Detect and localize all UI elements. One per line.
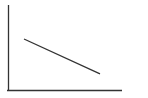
data-line: [24, 39, 100, 74]
line-chart: [0, 0, 148, 98]
